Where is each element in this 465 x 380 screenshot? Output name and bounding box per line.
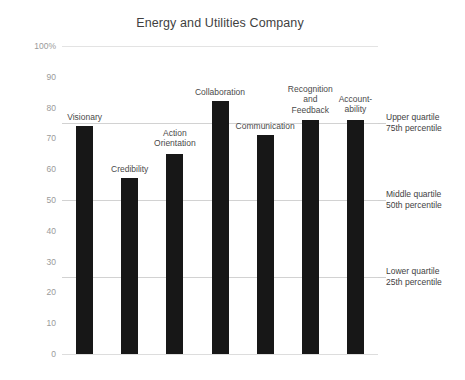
y-axis-tick-70: 70 <box>22 133 56 143</box>
bar-visionary <box>76 126 93 354</box>
y-axis-tick-10: 10 <box>22 318 56 328</box>
bar-label-accountability: Account- ability <box>323 94 387 115</box>
bar-credibility <box>121 178 138 354</box>
chart-title: Energy and Utilities Company <box>0 16 440 30</box>
quartile-note-50: Middle quartile 50th percentile <box>386 189 442 210</box>
y-axis-tick-30: 30 <box>22 257 56 267</box>
gridline-baseline <box>62 354 378 355</box>
y-axis-tick-20: 20 <box>22 287 56 297</box>
y-axis-tick-60: 60 <box>22 164 56 174</box>
bar-label-credibility: Credibility <box>98 164 162 175</box>
quartile-note-75: Upper quartile 75th percentile <box>386 112 442 133</box>
gridline-100 <box>62 46 378 47</box>
bar-label-action-orientation: Action Orientation <box>143 128 207 149</box>
quartile-note-25: Lower quartile 25th percentile <box>386 266 442 287</box>
bar-collaboration <box>212 101 229 354</box>
bar-accountability <box>347 120 364 354</box>
quartile-tick-50 <box>378 200 386 201</box>
y-axis-tick-labels: 0102030405060708090100% <box>18 46 56 358</box>
chart-container: Energy and Utilities Company 01020304050… <box>0 0 465 380</box>
bar-label-collaboration: Collaboration <box>188 87 252 98</box>
bar-label-visionary: Visionary <box>53 112 117 123</box>
bar-label-communication: Communication <box>233 121 297 132</box>
y-axis-tick-50: 50 <box>22 195 56 205</box>
y-axis-tick-100: 100% <box>22 41 56 51</box>
bar-action-orientation <box>166 154 183 354</box>
y-axis-tick-80: 80 <box>22 103 56 113</box>
y-axis-tick-40: 40 <box>22 226 56 236</box>
y-axis-tick-0: 0 <box>22 349 56 359</box>
quartile-tick-75 <box>378 123 386 124</box>
plot-area: VisionaryCredibilityAction OrientationCo… <box>62 46 378 358</box>
bar-communication <box>257 135 274 354</box>
y-axis-tick-90: 90 <box>22 72 56 82</box>
bar-recognition-and-feedback <box>302 120 319 354</box>
quartile-tick-25 <box>378 277 386 278</box>
